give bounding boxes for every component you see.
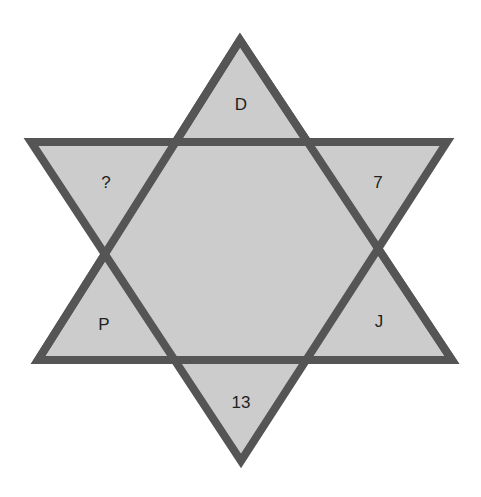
label-upper-right: 7 bbox=[373, 173, 382, 193]
label-lower-right: J bbox=[375, 312, 384, 332]
hexagram-diagram: D ? 7 P J 13 bbox=[0, 0, 481, 497]
label-upper-left: ? bbox=[101, 173, 110, 193]
label-bottom: 13 bbox=[232, 393, 251, 413]
label-top: D bbox=[235, 95, 247, 115]
label-lower-left: P bbox=[98, 315, 109, 335]
star-shape bbox=[0, 0, 481, 497]
